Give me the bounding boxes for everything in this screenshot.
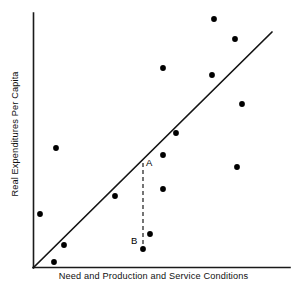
data-point bbox=[239, 101, 245, 107]
annotation-label-b: B bbox=[131, 236, 137, 246]
data-point bbox=[211, 16, 217, 22]
annotation-label-a: A bbox=[146, 158, 152, 168]
plot-canvas bbox=[0, 0, 307, 287]
data-point bbox=[232, 36, 238, 42]
data-point bbox=[61, 242, 67, 248]
data-point bbox=[160, 65, 166, 71]
data-point bbox=[173, 130, 179, 136]
regression-line bbox=[34, 32, 273, 268]
data-point bbox=[234, 164, 240, 170]
data-point bbox=[160, 186, 166, 192]
data-point-b bbox=[140, 246, 146, 252]
data-point bbox=[51, 259, 57, 265]
data-point bbox=[147, 231, 153, 237]
data-point bbox=[209, 72, 215, 78]
y-axis-title-container: Real Expenditures Per Capita bbox=[4, 0, 26, 268]
scatter-plot-figure: A B Real Expenditures Per Capita Need an… bbox=[0, 0, 307, 287]
data-point bbox=[53, 145, 59, 151]
x-axis-title: Need and Production and Service Conditio… bbox=[0, 271, 307, 281]
data-point bbox=[112, 193, 118, 199]
data-point bbox=[37, 211, 43, 217]
data-point bbox=[160, 152, 166, 158]
y-axis-title: Real Expenditures Per Capita bbox=[10, 71, 20, 196]
data-point-group bbox=[37, 16, 245, 265]
